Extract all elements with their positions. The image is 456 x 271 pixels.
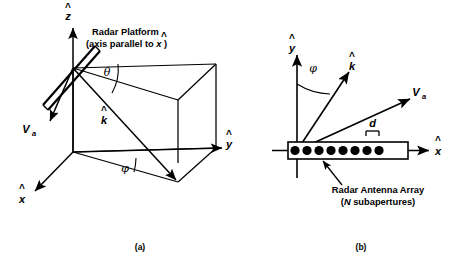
subaperture-dot — [362, 146, 371, 155]
panel-b-y-axis-label-group: ^ y — [288, 33, 296, 54]
antenna-array-line2-post: subapertures) — [351, 197, 416, 207]
panel-b-x-axis-label-group: ^ x — [434, 135, 442, 157]
element-spacing-bracket — [366, 131, 379, 136]
subaperture-dot — [302, 146, 311, 155]
figure-container: ^ z ^ y ^ x V a ^ k θ φ Radar Platform — [0, 0, 456, 271]
element-spacing-label: d — [369, 117, 376, 129]
velocity-vector-label: V — [22, 123, 31, 135]
panel-b-phi-arc — [297, 84, 330, 94]
subaperture-dot — [350, 146, 359, 155]
x-axis-label-group: ^ x — [18, 183, 26, 205]
subaperture-dot — [338, 146, 347, 155]
radar-platform-label: Radar Platform (axis parallel to x) ^ — [86, 27, 167, 49]
z-axis-label-group: ^ z — [64, 2, 71, 22]
y-axis-label: y — [225, 138, 233, 150]
platform-axis-hat-mark: ^ — [161, 31, 167, 42]
antenna-array-line1: Radar Antenna Array — [332, 185, 425, 195]
panel-a-group: ^ z ^ y ^ x V a ^ k θ φ Radar Platform — [18, 2, 233, 252]
panel-b-caption: (b) — [356, 242, 367, 252]
antenna-array-label: Radar Antenna Array (N subapertures) — [332, 185, 425, 207]
panel-b-phi-angle-label: φ — [309, 62, 317, 75]
panel-b-velocity-vector-subscript: a — [422, 92, 426, 101]
radar-geometry-figure: ^ z ^ y ^ x V a ^ k θ φ Radar Platform — [0, 0, 456, 271]
z-axis-label: z — [64, 10, 71, 22]
x-axis-label: x — [18, 193, 26, 205]
phi-angle-label: φ — [121, 162, 129, 175]
velocity-vector-subscript: a — [32, 129, 36, 138]
subaperture-dot — [374, 146, 383, 155]
y-axis-label-group: ^ y — [225, 129, 233, 150]
subaperture-dot — [314, 146, 323, 155]
subaperture-dot — [326, 146, 335, 155]
subaperture-dot — [290, 146, 299, 155]
panel-b-x-axis-label: x — [434, 145, 442, 157]
radar-platform-line2: (axis parallel to x) — [86, 39, 167, 49]
x-axis-line — [35, 152, 73, 191]
panel-b-velocity-vector-label: V — [412, 86, 421, 98]
radar-platform-bar — [43, 46, 100, 110]
panel-b-wave-vector-label-group: ^ k — [349, 51, 356, 72]
antenna-array-leader-line — [323, 161, 342, 185]
wave-vector-label: k — [101, 114, 108, 126]
panel-a-caption: (a) — [135, 242, 146, 252]
velocity-vector-label-group: V a — [22, 123, 36, 138]
theta-angle-label: θ — [104, 66, 111, 79]
scene-box-wireframe — [73, 64, 216, 182]
wave-vector-label-group: ^ k — [101, 105, 108, 126]
radar-platform-line2-pre: (axis parallel to — [86, 39, 156, 49]
panel-b-velocity-vector-label-group: V a — [412, 86, 426, 101]
antenna-array-line2: (N subapertures) — [341, 197, 415, 207]
panel-b-group: d ^ y ^ x ^ k V a φ Radar Antenna Array — [272, 33, 442, 252]
panel-b-y-axis-label: y — [288, 42, 296, 54]
panel-b-wave-vector-label: k — [349, 60, 356, 72]
radar-platform-line1: Radar Platform — [92, 27, 159, 37]
theta-arc — [112, 64, 118, 93]
